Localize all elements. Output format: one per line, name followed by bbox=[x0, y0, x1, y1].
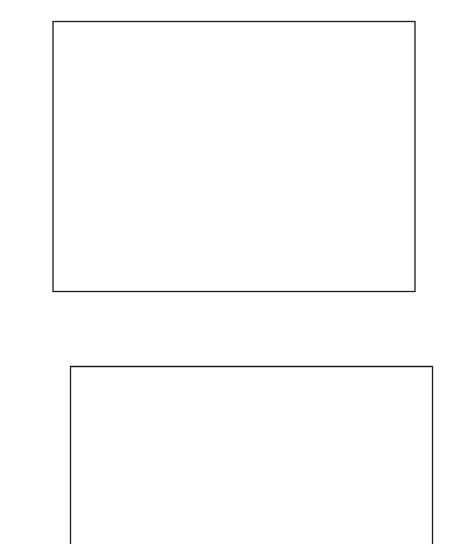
pressure-specific-volume-chart bbox=[0, 0, 458, 332]
temperature-entropy-chart bbox=[0, 332, 458, 544]
plot-frame-top bbox=[53, 22, 415, 292]
plot-frame-bottom bbox=[71, 367, 433, 544]
figure-root bbox=[0, 0, 458, 544]
